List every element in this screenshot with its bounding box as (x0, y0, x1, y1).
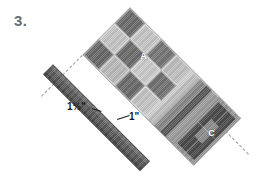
figure-canvas: 3. A (0, 0, 263, 189)
dimension-label-sashing-width: 1½" (67, 101, 86, 112)
quilt-panel-body: A C (83, 8, 240, 165)
dimension-leader-seam (117, 115, 130, 120)
block-label-c: C (208, 128, 215, 138)
block-label-a: A (140, 51, 147, 61)
dimension-label-seam-allowance: 1" (129, 111, 139, 122)
quilt-panel: A C (83, 8, 240, 165)
step-number: 3. (14, 12, 28, 29)
